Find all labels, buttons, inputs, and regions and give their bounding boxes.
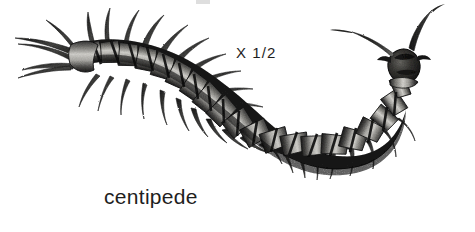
scan-smudge-artifact	[196, 0, 210, 4]
antenna-left-icon	[352, 32, 394, 57]
forcipules-icon	[377, 56, 391, 63]
caption-label: centipede	[104, 185, 198, 209]
illustration-page: X 1/2 centipede	[0, 0, 475, 232]
head	[330, 4, 445, 88]
scale-label: X 1/2	[236, 44, 277, 61]
centipede-body-group	[15, 4, 445, 180]
tail-end	[69, 41, 98, 72]
antenna-right-icon	[409, 10, 432, 51]
centipede-illustration	[0, 0, 475, 232]
